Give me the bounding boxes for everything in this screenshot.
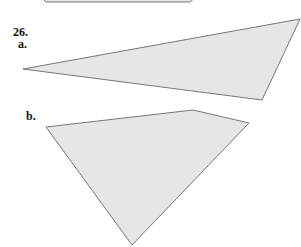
triangle-a bbox=[23, 19, 300, 100]
quadrilateral-b bbox=[46, 110, 249, 245]
problem-number: 26. a. bbox=[7, 14, 28, 50]
part-a-label: a. bbox=[18, 37, 27, 51]
figure-canvas bbox=[0, 0, 301, 247]
previous-shape-bottom-edge bbox=[40, 0, 197, 2]
part-b-label: b. bbox=[26, 110, 36, 122]
